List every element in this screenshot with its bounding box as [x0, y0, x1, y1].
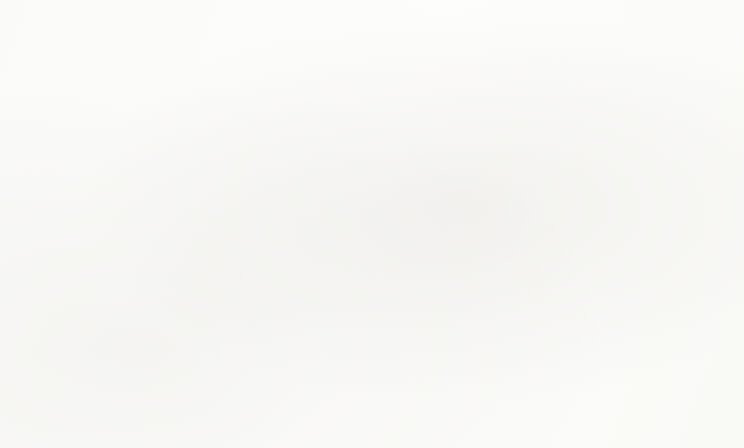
y-tick-label: 5.0: [73, 318, 88, 330]
y-axis-title: Concentration (µg/m³): [24, 160, 36, 269]
data-point: [236, 97, 241, 102]
data-point: [130, 56, 135, 61]
data-point: [165, 96, 170, 101]
x-tick-label: 2012: [509, 407, 533, 419]
legend-label: Harrison: [138, 280, 166, 289]
data-point: [377, 146, 382, 151]
data-point: [483, 187, 488, 192]
y-tick-label: 0.0: [73, 392, 88, 404]
legend-label: Lawrenceville: [138, 294, 183, 303]
legend-label: North Park: [138, 338, 174, 347]
data-point: [589, 208, 594, 213]
legend-label: Liberty: [138, 236, 160, 245]
x-tick-label: 2007: [332, 407, 356, 419]
x-tick-label: 2000: [85, 407, 109, 419]
data-point: [659, 208, 664, 213]
legend-label: Former EPA Standard (15.0 µg/m³): [138, 381, 252, 390]
x-tick-label: 2010: [438, 407, 462, 419]
y-tick-label: 15.0: [68, 172, 89, 184]
data-point: [165, 149, 170, 154]
data-point: [518, 216, 523, 221]
x-tick-label: 2013: [544, 407, 568, 419]
x-tick-label: 2011: [474, 407, 497, 419]
data-point: [518, 186, 523, 191]
x-tick-label: 2005: [262, 407, 286, 419]
data-point: [342, 152, 347, 157]
legend-label: Clairton: [138, 309, 163, 318]
data-point: [95, 89, 100, 94]
data-point: [553, 225, 558, 230]
y-axis: 0.05.010.015.020.025.0: [68, 25, 97, 404]
x-tick-label: 2017: [685, 407, 709, 419]
chart-legend: LibertyAvalonNorth BraddockHarrisonLawre…: [104, 228, 267, 393]
legend-label: Avalon: [138, 251, 160, 260]
data-point: [447, 158, 452, 163]
data-point: [271, 81, 276, 86]
x-tick-label: 2001: [121, 407, 145, 419]
data-point: [377, 181, 382, 186]
x-tick-label: 2014: [579, 407, 603, 419]
data-point: [342, 118, 347, 123]
data-point: [120, 238, 125, 243]
data-point: [695, 197, 700, 202]
chart-container: 0.05.010.015.020.025.0Concentration (µg/…: [0, 0, 744, 448]
x-tick-label: 2002: [156, 407, 180, 419]
data-point: [120, 267, 125, 272]
data-point: [95, 155, 100, 160]
x-axis: 2000200120022003200420052006200720082009…: [85, 398, 709, 419]
data-point: [271, 144, 276, 149]
data-point: [130, 144, 135, 149]
data-point: [200, 99, 205, 104]
line-chart: 0.05.010.015.020.025.0Concentration (µg/…: [0, 0, 744, 448]
legend-label: EPA Standard (12.0 µg/m³): [138, 367, 226, 376]
data-point: [306, 114, 311, 119]
data-point: [589, 225, 594, 230]
x-tick-label: 2009: [403, 407, 427, 419]
x-tick-label: 2015: [615, 407, 639, 419]
x-tick-label: 2004: [226, 407, 250, 419]
legend-label: Parkway East: [138, 352, 183, 361]
data-point: [624, 209, 629, 214]
data-point: [659, 238, 664, 243]
x-tick-label: 2006: [297, 407, 321, 419]
y-tick-label: 20.0: [68, 98, 89, 110]
legend-label: South Fayette: [138, 323, 184, 332]
x-tick-label: 2008: [368, 407, 392, 419]
x-tick-label: 2003: [191, 407, 215, 419]
y-tick-label: 25.0: [68, 25, 89, 37]
y-tick-label: 10.0: [68, 245, 89, 257]
legend-label: North Braddock: [138, 265, 190, 274]
x-tick-label: 2016: [650, 407, 674, 419]
